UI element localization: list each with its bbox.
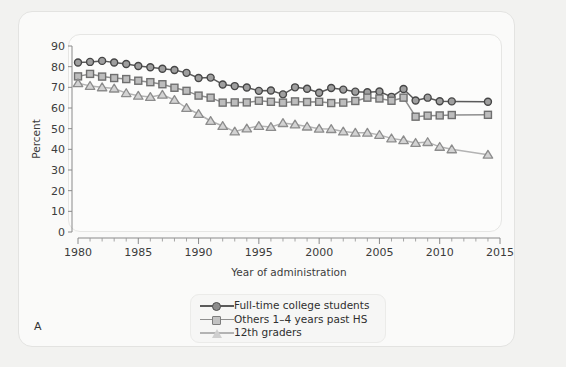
data-point — [304, 99, 311, 106]
legend-marker-circle-icon — [200, 299, 234, 312]
legend-marker-square-icon — [200, 313, 234, 326]
data-point — [111, 59, 118, 66]
data-point — [364, 94, 371, 101]
data-point — [254, 122, 263, 130]
data-point — [99, 57, 106, 64]
data-point — [111, 75, 118, 82]
data-point — [304, 85, 311, 92]
data-point — [87, 70, 94, 77]
legend-label: Full-time college students — [234, 299, 369, 312]
x-tick-label: 2005 — [365, 246, 393, 259]
data-point — [267, 87, 274, 94]
y-tick-label: 80 — [51, 61, 65, 74]
legend-item-12th-graders: 12th graders — [200, 326, 385, 340]
data-point — [352, 88, 359, 95]
data-point — [292, 84, 299, 91]
data-point — [147, 79, 154, 86]
figure-root: 0102030405060708090198019851990199520002… — [0, 0, 566, 367]
data-point — [194, 110, 203, 118]
data-point — [183, 69, 190, 76]
data-point — [412, 113, 419, 120]
legend-marker-triangle-icon — [200, 326, 234, 339]
data-point — [243, 84, 250, 91]
x-tick-label: 2000 — [305, 246, 333, 259]
data-point — [376, 95, 383, 102]
data-point — [484, 98, 491, 105]
data-point — [484, 111, 491, 118]
data-point — [135, 77, 142, 84]
data-point — [171, 84, 178, 91]
data-point — [412, 97, 419, 104]
data-point — [448, 112, 455, 119]
data-point — [278, 119, 287, 127]
data-point — [352, 97, 359, 104]
data-point — [219, 99, 226, 106]
data-point — [400, 94, 407, 101]
data-point — [328, 100, 335, 107]
data-point — [195, 75, 202, 82]
data-point — [147, 64, 154, 71]
data-point — [328, 84, 335, 91]
series-layer — [73, 57, 492, 158]
y-tick-label: 10 — [51, 205, 65, 218]
data-point — [123, 76, 130, 83]
data-point — [170, 96, 179, 104]
data-point — [448, 98, 455, 105]
x-tick-label: 1990 — [185, 246, 213, 259]
data-point — [207, 94, 214, 101]
data-point — [231, 83, 238, 90]
y-tick-label: 20 — [51, 185, 65, 198]
data-point — [183, 87, 190, 94]
data-point — [267, 98, 274, 105]
x-axis-title: Year of administration — [230, 266, 346, 278]
data-point — [231, 99, 238, 106]
data-point — [159, 65, 166, 72]
data-point — [436, 112, 443, 119]
data-point — [424, 112, 431, 119]
data-point — [279, 91, 286, 98]
data-point — [435, 142, 444, 150]
data-point — [218, 122, 227, 130]
chart-legend: Full-time college students Others 1–4 ye… — [190, 294, 386, 343]
data-point — [400, 85, 407, 92]
y-tick-label: 50 — [51, 123, 65, 136]
data-point — [219, 81, 226, 88]
y-axis-title: Percent — [30, 119, 42, 159]
data-point — [316, 98, 323, 105]
data-point — [195, 92, 202, 99]
data-point — [207, 74, 214, 81]
data-point — [243, 99, 250, 106]
data-point — [424, 94, 431, 101]
legend-item-others-past-hs: Others 1–4 years past HS — [200, 313, 385, 327]
y-tick-label: 40 — [51, 143, 65, 156]
legend-label: 12th graders — [234, 326, 302, 339]
x-tick-label: 2010 — [426, 246, 454, 259]
data-point — [316, 89, 323, 96]
y-tick-label: 60 — [51, 102, 65, 115]
data-point — [376, 88, 383, 95]
data-point — [206, 117, 215, 125]
x-tick-label: 1980 — [64, 246, 92, 259]
y-tick-label: 70 — [51, 81, 65, 94]
data-point — [158, 90, 167, 98]
data-point — [123, 60, 130, 67]
data-point — [340, 99, 347, 106]
data-point — [292, 98, 299, 105]
y-tick-label: 0 — [58, 226, 65, 239]
data-point — [279, 99, 286, 106]
data-point — [135, 63, 142, 70]
x-tick-label: 1985 — [124, 246, 152, 259]
data-point — [99, 73, 106, 80]
data-point — [436, 98, 443, 105]
x-tick-label: 1995 — [245, 246, 273, 259]
data-point — [255, 97, 262, 104]
data-point — [182, 104, 191, 112]
y-tick-label: 30 — [51, 164, 65, 177]
data-point — [75, 59, 82, 66]
data-point — [159, 81, 166, 88]
panel-letter: A — [34, 320, 42, 333]
data-point — [340, 86, 347, 93]
data-point — [255, 87, 262, 94]
legend-label: Others 1–4 years past HS — [234, 313, 367, 326]
y-tick-label: 90 — [51, 40, 65, 53]
